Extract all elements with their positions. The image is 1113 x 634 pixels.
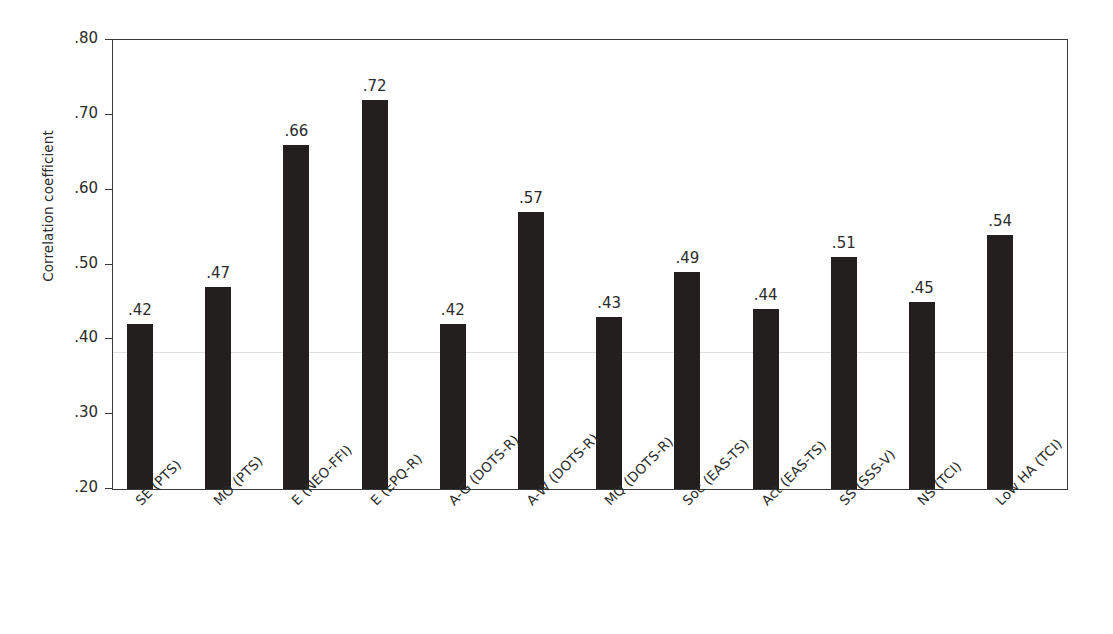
bar-value-label: .66 [266, 122, 326, 140]
plot-area: .42.47.66.72.42.57.43.49.44.51.45.54 [113, 40, 1067, 489]
y-tick-mark [105, 114, 113, 115]
y-tick-mark [105, 488, 113, 489]
y-tick-mark [105, 189, 113, 190]
bar [362, 100, 388, 489]
bar-value-label: .47 [188, 264, 248, 282]
bar [909, 302, 935, 489]
y-tick-label: .60 [40, 179, 98, 197]
bar-chart-figure: Correlation coefficient .20.30.40.50.60.… [0, 0, 1113, 634]
bar [518, 212, 544, 489]
y-tick-mark [105, 39, 113, 40]
y-tick-mark [105, 338, 113, 339]
y-tick-label: .80 [40, 29, 98, 47]
bar-value-label: .44 [736, 286, 796, 304]
y-tick-label: .40 [40, 328, 98, 346]
bar [987, 235, 1013, 489]
bar [283, 145, 309, 489]
bar [596, 317, 622, 489]
y-tick-label: .30 [40, 403, 98, 421]
bar [831, 257, 857, 489]
bar-value-label: .51 [814, 234, 874, 252]
bar [753, 309, 779, 489]
y-axis-title: Correlation coefficient [40, 96, 56, 316]
bar-value-label: .43 [579, 294, 639, 312]
bar-value-label: .57 [501, 189, 561, 207]
y-tick-mark [105, 264, 113, 265]
y-tick-mark [105, 413, 113, 414]
y-tick-label: .50 [40, 254, 98, 272]
y-tick-label: .20 [40, 478, 98, 496]
y-tick-label: .70 [40, 104, 98, 122]
bar-value-label: .72 [345, 77, 405, 95]
bar [674, 272, 700, 489]
bar [127, 324, 153, 489]
bar [205, 287, 231, 489]
bar-value-label: .42 [110, 301, 170, 319]
bar-value-label: .45 [892, 279, 952, 297]
bar [440, 324, 466, 489]
bar-value-label: .49 [657, 249, 717, 267]
bar-value-label: .54 [970, 212, 1030, 230]
bar-value-label: .42 [423, 301, 483, 319]
